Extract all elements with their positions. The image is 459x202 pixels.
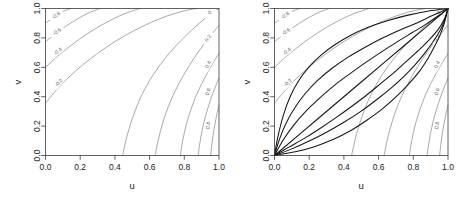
contour-line — [123, 9, 219, 156]
contour-line — [409, 53, 448, 155]
contour-level-label: -0.8 — [280, 10, 291, 20]
figure-container: -0.8-0.6-0.4-0.200.20.40.60.80.00.20.40.… — [0, 0, 459, 202]
contour-level-label: -0.4 — [52, 46, 63, 56]
y-tick-label: 0.0 — [261, 149, 271, 161]
contour-plot-right: -0.8-0.6-0.4-0.200.20.40.60.80.00.20.40.… — [229, 0, 458, 202]
plot-box — [46, 9, 220, 156]
x-tick-label: 0.0 — [40, 162, 52, 172]
y-tick-label: 0.2 — [32, 120, 42, 132]
y-tick-label: 0.2 — [261, 120, 271, 132]
x-tick-label: 0.4 — [338, 162, 350, 172]
contour-level-label: -0.8 — [51, 10, 62, 20]
x-axis-title: u — [359, 180, 364, 191]
y-tick-label: 1.0 — [261, 2, 271, 14]
y-axis-title: v — [12, 79, 23, 84]
x-tick-label: 0.6 — [144, 162, 156, 172]
contour-plot-left: -0.8-0.6-0.4-0.200.20.40.60.80.00.20.40.… — [0, 0, 229, 202]
contour-level-label: -0.2 — [53, 77, 64, 88]
y-axis-title: v — [241, 79, 252, 84]
y-tick-label: 0.8 — [32, 32, 42, 44]
contour-level-label: 0.6 — [433, 87, 441, 96]
contour-line — [46, 9, 141, 68]
y-tick-label: 0.4 — [32, 91, 42, 103]
y-tick-label: 0.4 — [261, 91, 271, 103]
y-tick-label: 0.6 — [261, 61, 271, 73]
contour-level-label: 0.8 — [433, 121, 440, 129]
contour-line — [46, 9, 198, 104]
x-tick-label: 1.0 — [442, 162, 454, 172]
x-tick-label: 0.8 — [407, 162, 419, 172]
contour-level-label: -0.2 — [282, 77, 293, 88]
x-tick-label: 0.8 — [178, 162, 190, 172]
contour-level-label: 0.8 — [204, 121, 211, 129]
x-tick-label: 0.2 — [74, 162, 86, 172]
x-tick-label: 0.0 — [269, 162, 281, 172]
contour-level-label: 0.6 — [204, 87, 212, 96]
x-tick-label: 0.2 — [303, 162, 315, 172]
x-tick-label: 0.6 — [373, 162, 385, 172]
contour-level-label: -0.4 — [281, 46, 292, 56]
x-tick-label: 0.4 — [109, 162, 121, 172]
y-tick-label: 0.6 — [32, 61, 42, 73]
panel-left: -0.8-0.6-0.4-0.200.20.40.60.80.00.20.40.… — [0, 0, 229, 202]
contour-line — [211, 105, 219, 156]
contour-level-label: -0.6 — [280, 26, 291, 36]
contour-line — [180, 53, 219, 155]
contour-line — [275, 9, 370, 68]
y-tick-label: 0.0 — [32, 149, 42, 161]
contour-level-label: 0 — [206, 9, 212, 16]
contour-level-label: -0.6 — [51, 26, 62, 36]
x-tick-label: 1.0 — [213, 162, 225, 172]
y-tick-label: 1.0 — [32, 2, 42, 14]
y-tick-label: 0.8 — [261, 32, 271, 44]
panel-right: -0.8-0.6-0.4-0.200.20.40.60.80.00.20.40.… — [229, 0, 458, 202]
x-axis-title: u — [130, 180, 135, 191]
contour-line — [440, 105, 448, 156]
